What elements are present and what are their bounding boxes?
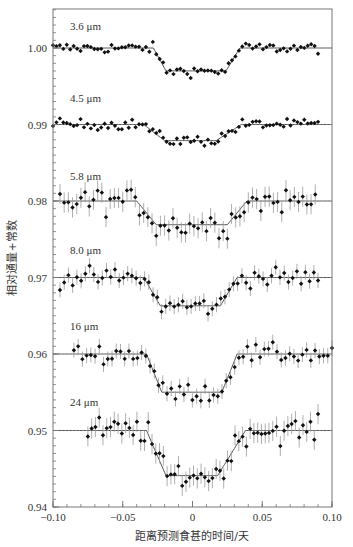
data-point: [307, 279, 311, 283]
data-point: [244, 444, 248, 448]
data-point: [202, 299, 206, 303]
data-point: [178, 67, 182, 71]
series-layer: 3.6 μm4.5 μm5.8 μm8.0 μm16 μm24 μm: [51, 20, 334, 496]
y-tick-label: 0.96: [28, 348, 48, 360]
data-point: [250, 195, 254, 199]
data-point: [285, 49, 289, 53]
data-point: [79, 196, 83, 200]
data-point: [109, 43, 113, 47]
data-point: [206, 137, 210, 141]
data-point: [75, 202, 79, 206]
data-point: [125, 271, 129, 275]
data-point: [78, 49, 82, 53]
data-point: [93, 425, 97, 429]
data-point: [195, 135, 199, 139]
data-point: [202, 144, 206, 148]
data-point: [247, 123, 251, 127]
data-point: [223, 134, 227, 138]
data-point: [240, 117, 244, 121]
data-point: [106, 126, 110, 130]
data-point: [224, 379, 228, 383]
data-point: [282, 271, 286, 275]
data-point: [286, 424, 290, 428]
y-axis-title: 相对通量+常数: [5, 220, 19, 295]
data-point: [252, 431, 256, 435]
data-point: [184, 480, 188, 484]
data-point: [255, 431, 259, 435]
data-point: [180, 299, 184, 303]
data-point: [99, 125, 103, 129]
data-point: [178, 142, 182, 146]
data-point: [183, 231, 187, 235]
data-point: [261, 125, 265, 129]
data-point: [142, 439, 146, 443]
data-point: [72, 348, 76, 352]
data-point: [172, 304, 176, 308]
data-point: [275, 349, 279, 353]
y-tick-label: 0.99: [28, 119, 48, 131]
data-point: [168, 301, 172, 305]
data-point: [309, 202, 313, 206]
data-point: [281, 124, 285, 128]
data-point: [118, 349, 122, 353]
data-point: [61, 47, 65, 51]
y-tick-label: 0.97: [28, 272, 48, 284]
data-point: [96, 280, 100, 284]
series-24m-um: 24 μm: [53, 396, 332, 496]
y-tick-label: 0.98: [28, 195, 48, 207]
data-point: [229, 212, 233, 216]
data-point: [214, 467, 218, 471]
data-point: [225, 236, 229, 240]
data-point: [288, 198, 292, 202]
data-point: [92, 123, 96, 127]
data-point: [267, 431, 271, 435]
data-point: [133, 125, 137, 129]
data-point: [127, 426, 131, 430]
data-point: [238, 214, 242, 218]
data-point: [122, 357, 126, 361]
data-point: [109, 275, 113, 279]
data-point: [194, 394, 198, 398]
data-point: [226, 129, 230, 133]
data-point: [102, 50, 106, 54]
data-point: [158, 129, 162, 133]
series-label: 4.5 μm: [70, 92, 101, 104]
data-point: [157, 451, 161, 455]
data-point: [66, 273, 70, 277]
data-point: [288, 123, 292, 127]
data-point: [168, 142, 172, 146]
data-point: [274, 424, 278, 428]
data-point: [176, 464, 180, 468]
data-point: [121, 199, 125, 203]
data-point: [235, 281, 239, 285]
data-point: [146, 420, 150, 424]
data-point: [175, 226, 179, 230]
data-point: [271, 429, 275, 433]
data-point: [265, 282, 269, 286]
data-point: [262, 347, 266, 351]
data-point: [237, 356, 241, 360]
light-curve-chart: 3.6 μm4.5 μm5.8 μm8.0 μm16 μm24 μm 0.940…: [0, 0, 353, 547]
x-tick-label: 0: [190, 511, 196, 523]
data-point: [182, 392, 186, 396]
data-point: [190, 398, 194, 402]
data-point: [185, 72, 189, 76]
data-point: [86, 434, 90, 438]
data-point: [266, 347, 270, 351]
data-point: [127, 349, 131, 353]
data-point: [300, 352, 304, 356]
data-point: [302, 46, 306, 50]
data-point: [120, 127, 124, 131]
data-point: [217, 236, 221, 240]
model-fit-line: [53, 48, 332, 71]
data-point: [89, 126, 93, 130]
data-point: [131, 357, 135, 361]
data-point: [209, 141, 213, 145]
data-point: [283, 356, 287, 360]
data-point: [312, 438, 316, 442]
data-point: [130, 43, 134, 47]
series-label: 3.6 μm: [70, 20, 101, 32]
data-point: [200, 220, 204, 224]
data-point: [278, 444, 282, 448]
data-point: [92, 272, 96, 276]
